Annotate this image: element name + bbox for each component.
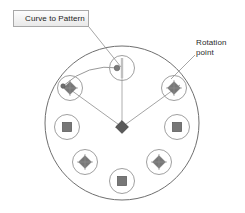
figure-canvas: Curve to Pattern Rotation point <box>0 0 245 213</box>
cad-pattern-diagram <box>0 0 245 213</box>
rotation-point-label-line2: point <box>196 48 242 58</box>
seed-instance-handle[interactable] <box>114 65 120 71</box>
curve-to-pattern-label: Curve to Pattern <box>25 14 85 24</box>
pattern-instance-upper-left[interactable] <box>58 76 83 101</box>
pattern-instance-lower-right[interactable] <box>147 150 172 175</box>
square-icon <box>118 177 127 186</box>
pattern-instance-upper-right[interactable] <box>162 76 187 101</box>
drag-grip-icon[interactable] <box>17 12 22 25</box>
curve-to-pattern-leader-line <box>89 27 121 67</box>
rotation-point-label-line1: Rotation <box>196 38 242 48</box>
curve-to-pattern-callout[interactable]: Curve to Pattern <box>13 10 89 27</box>
pattern-instance-right[interactable] <box>165 115 190 140</box>
rotation-point-diamond-icon <box>116 121 129 134</box>
rotation-point-callout: Rotation point <box>196 38 242 58</box>
pattern-instance-left[interactable] <box>55 115 80 140</box>
square-icon <box>173 123 182 132</box>
square-icon <box>63 123 72 132</box>
rotation-point-marker[interactable] <box>116 121 129 134</box>
pattern-instance-bottom[interactable] <box>110 169 135 194</box>
arc-endpoint-handle[interactable] <box>61 84 65 88</box>
pattern-instance-top[interactable] <box>110 56 135 81</box>
pattern-instance-lower-left[interactable] <box>73 150 98 175</box>
